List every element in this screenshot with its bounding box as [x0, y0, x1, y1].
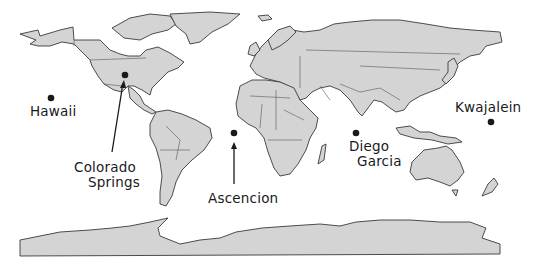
label-colorado-springs-line2: Springs [74, 175, 140, 190]
madagascar [318, 144, 326, 164]
label-hawaii: Hawaii [30, 104, 76, 119]
label-colorado-springs: Colorado Springs [74, 160, 140, 190]
marker-kwajalein[interactable] [488, 119, 495, 126]
label-diego-garcia-line2: Garcia [349, 154, 402, 169]
marker-diego-garcia[interactable] [353, 130, 360, 137]
north-america [20, 27, 184, 95]
label-diego-garcia: Diego Garcia [349, 139, 402, 169]
southeast-asia-islands [396, 126, 462, 144]
iceland [258, 15, 272, 21]
marker-colorado-springs[interactable] [122, 72, 129, 79]
arrowhead-ascencion [231, 142, 237, 149]
label-colorado-springs-line1: Colorado [74, 160, 140, 175]
antarctica [20, 218, 500, 256]
tasmania [452, 190, 458, 196]
label-ascencion: Ascencion [208, 191, 278, 206]
label-diego-garcia-line1: Diego [349, 139, 402, 154]
arctic-islands [112, 14, 176, 40]
marker-ascencion[interactable] [231, 130, 238, 137]
label-kwajalein: Kwajalein [455, 100, 521, 115]
south-america [150, 110, 212, 206]
arrow-colorado-springs [112, 83, 123, 152]
marker-hawaii[interactable] [48, 95, 55, 102]
greenland [170, 12, 240, 44]
world-map [0, 0, 536, 267]
australia [410, 146, 464, 186]
new-zealand [482, 178, 498, 196]
